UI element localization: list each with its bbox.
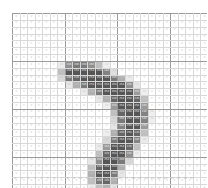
pixel-cell: 0 (58, 116, 66, 123)
pixel-cell: 254 (110, 164, 118, 171)
pixel-cell: 0 (73, 109, 81, 116)
pixel-cell: 0 (186, 75, 194, 82)
pixel-cell: 0 (13, 157, 21, 164)
pixel-cell: 0 (58, 27, 66, 34)
pixel-cell: 0 (73, 150, 81, 157)
pixel-cell: 0 (156, 41, 164, 48)
pixel-cell: 120 (103, 185, 111, 188)
x-tick-label: 12 (92, 177, 96, 180)
pixel-cell: 0 (201, 55, 207, 62)
pixel-cell: 254 (73, 68, 81, 75)
pixel-cell: 0 (35, 123, 43, 130)
pixel-cell: 0 (171, 27, 179, 34)
pixel-cell: 0 (43, 68, 51, 75)
pixel-cell: 0 (193, 130, 201, 137)
pixel-cell: 0 (65, 109, 73, 116)
pixel-cell: 0 (133, 68, 141, 75)
pixel-cell: 0 (163, 123, 171, 130)
pixel-cell: 0 (95, 137, 103, 144)
pixel-cell: 0 (73, 144, 81, 151)
pixel-cell: 0 (50, 164, 58, 171)
pixel-cell: 0 (193, 137, 201, 144)
pixel-cell: 0 (20, 164, 28, 171)
pixel-cell: 0 (171, 116, 179, 123)
pixel-cell: 0 (193, 96, 201, 103)
pixel-cell: 0 (171, 75, 179, 82)
x-tick-label: 11 (85, 177, 89, 180)
pixel-cell: 0 (73, 34, 81, 41)
pixel-cell: 0 (28, 48, 36, 55)
pixel-cell: 0 (163, 96, 171, 103)
pixel-cell: 0 (110, 34, 118, 41)
pixel-cell: 0 (156, 137, 164, 144)
pixel-grid: 0000000000000000000000000000000000000000… (12, 13, 207, 188)
pixel-cell: 0 (186, 55, 194, 62)
x-tick-label: 19 (138, 177, 142, 180)
pixel-cell: 0 (28, 82, 36, 89)
pixel-cell: 0 (13, 185, 21, 188)
pixel-cell: 0 (80, 14, 88, 21)
pixel-cell: 0 (43, 157, 51, 164)
pixel-cell: 0 (80, 41, 88, 48)
pixel-cell: 254 (125, 130, 133, 137)
x-tick-label: 3 (34, 177, 36, 180)
pixel-cell: 30 (141, 137, 149, 144)
pixel-cell: 0 (88, 123, 96, 130)
pixel-cell: 0 (73, 55, 81, 62)
pixel-cell: 0 (35, 20, 43, 27)
pixel-cell: 0 (20, 89, 28, 96)
pixel-grid-row: 0000000000000000000000000000 (13, 34, 208, 41)
x-tick-label: 23 (164, 177, 168, 180)
pixel-cell: 0 (201, 41, 207, 48)
pixel-cell: 0 (50, 27, 58, 34)
pixel-cell: 0 (186, 116, 194, 123)
pixel-cell: 24 (133, 150, 141, 157)
pixel-cell: 0 (141, 144, 149, 151)
x-tick-label: 1 (21, 177, 23, 180)
pixel-cell: 0 (193, 102, 201, 109)
pixel-cell: 0 (35, 68, 43, 75)
pixel-cell: 150 (141, 123, 149, 130)
pixel-cell: 0 (118, 20, 126, 27)
x-tick-label: 15 (112, 177, 116, 180)
pixel-cell: 0 (58, 157, 66, 164)
pixel-cell: 0 (95, 41, 103, 48)
x-tick-label: 26 (183, 177, 187, 180)
pixel-cell: 0 (201, 144, 207, 151)
x-tick-label: 13 (98, 177, 102, 180)
pixel-cell: 0 (156, 48, 164, 55)
pixel-cell: 0 (13, 102, 21, 109)
pixel-cell: 254 (118, 89, 126, 96)
pixel-cell: 0 (43, 55, 51, 62)
pixel-cell: 0 (58, 89, 66, 96)
pixel-cell: 0 (186, 68, 194, 75)
pixel-cell: 0 (171, 144, 179, 151)
pixel-cell: 0 (178, 116, 186, 123)
pixel-cell: 0 (73, 48, 81, 55)
pixel-cell: 0 (125, 34, 133, 41)
pixel-cell: 0 (178, 55, 186, 62)
pixel-grid-row: 000000000000241502542542541500000000000 (13, 102, 208, 109)
pixel-cell: 0 (193, 27, 201, 34)
pixel-grid-row: 0000000000000361862542541500000000000 (13, 123, 208, 130)
pixel-cell: 254 (110, 82, 118, 89)
pixel-cell: 0 (141, 20, 149, 27)
pixel-cell: 0 (80, 20, 88, 27)
pixel-cell: 0 (43, 96, 51, 103)
pixel-cell: 0 (133, 75, 141, 82)
pixel-cell: 0 (156, 123, 164, 130)
pixel-cell: 0 (186, 130, 194, 137)
pixel-cell: 0 (110, 41, 118, 48)
pixel-cell: 0 (148, 48, 156, 55)
pixel-cell: 0 (43, 61, 51, 68)
x-tick-label: 22 (157, 177, 161, 180)
pixel-cell: 0 (163, 157, 171, 164)
pixel-cell: 0 (43, 75, 51, 82)
pixel-cell: 254 (118, 82, 126, 89)
pixel-cell: 0 (163, 34, 171, 41)
pixel-cell: 0 (193, 75, 201, 82)
pixel-cell: 0 (80, 27, 88, 34)
pixel-cell: 0 (80, 102, 88, 109)
pixel-cell: 0 (118, 34, 126, 41)
pixel-cell: 0 (13, 96, 21, 103)
